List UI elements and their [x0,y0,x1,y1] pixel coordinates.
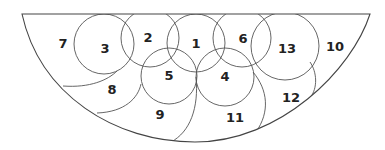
region-label-13: 13 [278,41,296,56]
region-label-2: 2 [143,30,152,45]
region-label-9: 9 [155,107,164,122]
region-label-8: 8 [107,82,116,97]
segmented-half-circle-diagram: 1 2 3 4 5 6 7 8 9 10 11 12 13 [0,0,385,150]
arc-9-11 [171,77,197,142]
arc-11-12 [253,72,265,132]
region-label-10: 10 [326,39,344,54]
region-label-12: 12 [282,90,300,105]
region-label-6: 6 [238,31,247,46]
region-label-3: 3 [100,41,109,56]
region-label-5: 5 [164,68,173,83]
region-label-1: 1 [191,36,200,51]
region-label-11: 11 [226,110,244,125]
diagram-lines [0,0,385,150]
region-label-7: 7 [58,36,67,51]
arc-8-9 [97,84,141,113]
region-label-4: 4 [220,69,229,84]
